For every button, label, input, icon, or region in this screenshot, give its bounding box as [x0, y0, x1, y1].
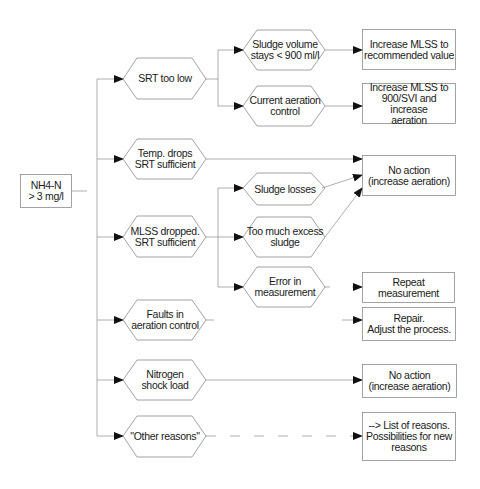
action-list-reasons: --> List of reasons. Possibilities for n… — [363, 413, 455, 460]
cause-nitrogen-shock: Nitrogen shock load — [128, 360, 202, 400]
root-label: NH4-N > 3 mg/l — [20, 174, 72, 208]
action-repair: Repair. Adjust the process. — [363, 308, 455, 340]
cause-other-reasons: "Other reasons" — [128, 416, 202, 457]
cause-mlss-dropped: MLSS dropped. SRT sufficient — [128, 216, 202, 257]
subcause-sludge-losses: Sludge losses — [247, 173, 323, 205]
action-no-action-2: No action (increase aeration) — [363, 365, 456, 397]
subcause-excess-sludge: Too much excess sludge — [245, 217, 325, 257]
action-repeat-measurement: Repeat measurement — [363, 273, 454, 302]
action-increase-mlss-svi: Increase MLSS to 900/SVI and increase ae… — [363, 84, 455, 123]
cause-srt-too-low: SRT too low — [128, 58, 202, 99]
action-no-action-1: No action (increase aeration) — [363, 156, 455, 195]
cause-faults-aeration: Faults in aeration control — [125, 300, 205, 340]
subcause-error-measurement: Error in measurement — [247, 267, 323, 307]
action-increase-mlss-recommended: Increase MLSS to recommended value — [363, 30, 455, 69]
subcause-current-aeration: Current aeration control — [245, 86, 325, 126]
subcause-sludge-volume: Sludge volume stays < 900 ml/l — [247, 30, 323, 70]
cause-temp-drops: Temp. drops SRT sufficient — [128, 139, 202, 179]
